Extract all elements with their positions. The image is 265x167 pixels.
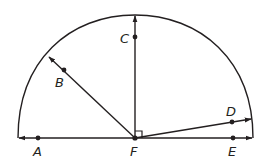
label-E: E (228, 144, 237, 159)
point-D (230, 120, 235, 125)
diagram-canvas: A B C D E F (0, 0, 265, 167)
geometry-diagram: A B C D E F (0, 0, 265, 167)
point-E (231, 136, 236, 141)
point-C (133, 35, 138, 40)
label-A: A (32, 144, 42, 159)
label-D: D (226, 104, 236, 119)
label-F: F (130, 144, 138, 159)
label-B: B (55, 75, 64, 90)
point-F (132, 135, 137, 140)
label-C: C (120, 31, 130, 46)
point-A (36, 136, 41, 141)
point-B (62, 68, 67, 73)
